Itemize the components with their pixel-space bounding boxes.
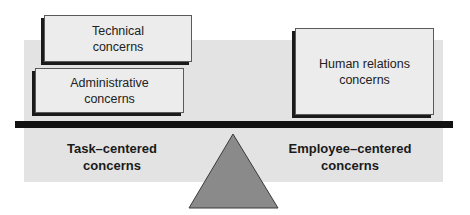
administrative-box-line2: concerns: [70, 91, 149, 107]
balance-beam: [15, 121, 453, 128]
administrative-concerns-box: Administrative concerns: [35, 68, 184, 113]
task-centered-line2: concerns: [52, 157, 172, 174]
task-centered-label: Task–centered concerns: [52, 140, 172, 174]
administrative-box-line1: Administrative: [70, 75, 149, 91]
technical-box-line1: Technical: [92, 23, 144, 39]
technical-box-line2: concerns: [92, 39, 144, 55]
human-relations-box-line1: Human relations: [319, 56, 410, 72]
employee-centered-line2: concerns: [280, 157, 420, 174]
employee-centered-label: Employee–centered concerns: [280, 140, 420, 174]
task-centered-line1: Task–centered: [52, 140, 172, 157]
technical-concerns-box: Technical concerns: [44, 15, 192, 62]
fulcrum-triangle-icon: [188, 133, 280, 210]
human-relations-box-line2: concerns: [319, 72, 410, 88]
employee-centered-line1: Employee–centered: [280, 140, 420, 157]
human-relations-concerns-box: Human relations concerns: [295, 28, 434, 115]
